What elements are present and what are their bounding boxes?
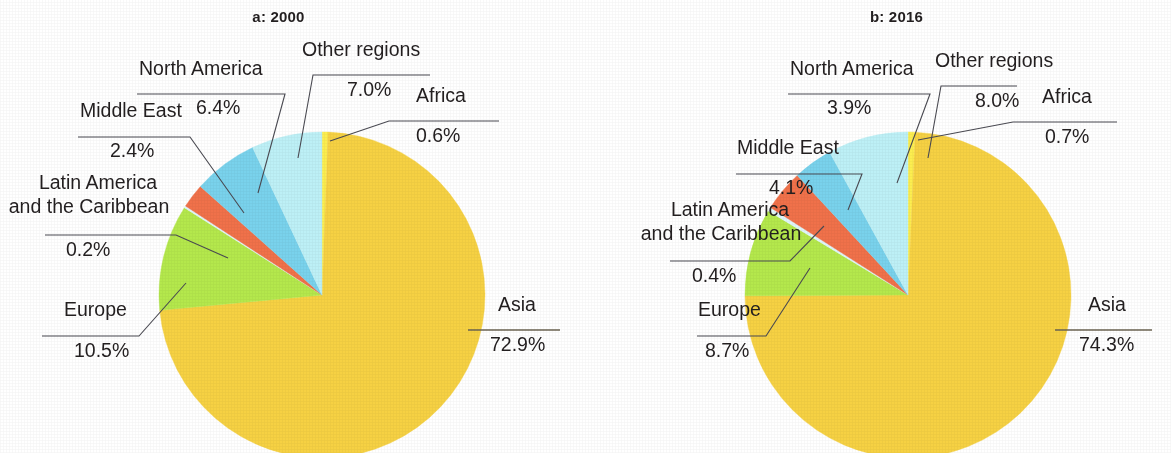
label-middle-east-a: Middle East bbox=[80, 99, 182, 122]
label-middle-east-b: Middle East bbox=[737, 136, 839, 159]
label-latin-america-b-line2: and the Caribbean bbox=[631, 222, 811, 245]
pct-europe-b: 8.7% bbox=[705, 339, 749, 362]
label-europe-b: Europe bbox=[698, 298, 761, 321]
pct-latin-america-a: 0.2% bbox=[66, 238, 110, 261]
pct-africa-b: 0.7% bbox=[1045, 125, 1089, 148]
label-europe-a: Europe bbox=[64, 298, 127, 321]
pct-asia-b: 74.3% bbox=[1079, 333, 1134, 356]
label-other-regions-b: Other regions bbox=[935, 49, 1053, 72]
label-latin-america-b-line1: Latin America bbox=[650, 198, 810, 221]
pct-asia-a: 72.9% bbox=[490, 333, 545, 356]
label-other-regions-a: Other regions bbox=[302, 38, 420, 61]
pie-chart-figure: a: 2000 b: 2016 bbox=[0, 0, 1171, 453]
pct-europe-a: 10.5% bbox=[74, 339, 129, 362]
label-africa-b: Africa bbox=[1042, 85, 1092, 108]
label-latin-america-a-line2: and the Caribbean bbox=[0, 195, 178, 218]
pct-north-america-b: 3.9% bbox=[827, 96, 871, 119]
pct-middle-east-b: 4.1% bbox=[769, 176, 813, 199]
label-latin-america-a-line1: Latin America bbox=[18, 171, 178, 194]
pct-latin-america-b: 0.4% bbox=[692, 264, 736, 287]
label-asia-a: Asia bbox=[498, 293, 536, 316]
label-north-america-b: North America bbox=[790, 57, 914, 80]
pct-africa-a: 0.6% bbox=[416, 124, 460, 147]
pct-middle-east-a: 2.4% bbox=[110, 139, 154, 162]
pct-other-regions-a: 7.0% bbox=[347, 78, 391, 101]
pct-north-america-a: 6.4% bbox=[196, 96, 240, 119]
pie-a bbox=[159, 132, 485, 453]
label-asia-b: Asia bbox=[1088, 293, 1126, 316]
label-africa-a: Africa bbox=[416, 84, 466, 107]
label-north-america-a: North America bbox=[139, 57, 263, 80]
pct-other-regions-b: 8.0% bbox=[975, 89, 1019, 112]
